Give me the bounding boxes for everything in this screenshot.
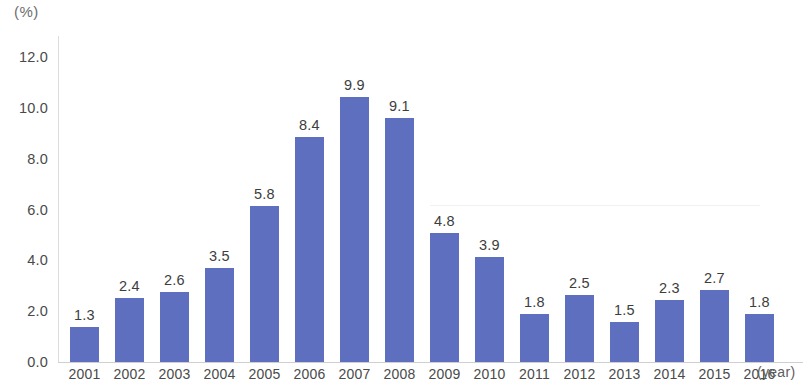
bar-slot: 2.5	[557, 36, 602, 362]
x-axis-tick-label: 2010	[467, 366, 512, 382]
y-axis-tick-label: 2.0	[0, 303, 48, 319]
bar[interactable]	[610, 322, 639, 362]
bar-slot: 5.8	[242, 36, 287, 362]
bar[interactable]	[565, 295, 594, 362]
bar-value-label: 9.1	[377, 98, 422, 114]
bar-value-label: 3.9	[467, 237, 512, 253]
bar[interactable]	[160, 292, 189, 362]
bar[interactable]	[745, 314, 774, 362]
bar-value-label: 1.5	[602, 302, 647, 318]
bar-value-label: 2.6	[152, 272, 197, 288]
bar-slot: 2.7	[692, 36, 737, 362]
bar-value-label: 2.3	[647, 280, 692, 296]
x-axis-tick-label: 2004	[197, 366, 242, 382]
y-axis-unit-label: (%)	[14, 3, 39, 20]
bar[interactable]	[115, 298, 144, 362]
y-axis-tick-label: 12.0	[0, 49, 48, 65]
bar-slot: 1.8	[737, 36, 782, 362]
bar-value-label: 2.7	[692, 270, 737, 286]
x-axis-tick-label: 2007	[332, 366, 377, 382]
bar-slot: 2.6	[152, 36, 197, 362]
bar-slot: 9.9	[332, 36, 377, 362]
bar[interactable]	[250, 206, 279, 362]
bar-value-label: 5.8	[242, 186, 287, 202]
x-axis-tick-label: 2013	[602, 366, 647, 382]
bar[interactable]	[475, 257, 504, 362]
bar-slot: 2.3	[647, 36, 692, 362]
x-axis-tick-label: 2001	[62, 366, 107, 382]
bar[interactable]	[295, 137, 324, 362]
x-axis-tick-label: 2008	[377, 366, 422, 382]
bar-chart: (%) 0.02.04.06.08.010.012.0 1.32.42.63.5…	[0, 0, 810, 390]
bar[interactable]	[205, 268, 234, 362]
bar[interactable]	[70, 327, 99, 362]
y-axis-tick-label: 4.0	[0, 252, 48, 268]
x-axis-line	[58, 362, 803, 363]
x-axis-tick-label: 2012	[557, 366, 602, 382]
bar-value-label: 1.8	[737, 294, 782, 310]
bar-value-label: 4.8	[422, 213, 467, 229]
x-axis-tick-label: 2003	[152, 366, 197, 382]
y-axis-tick-label: 8.0	[0, 151, 48, 167]
bar[interactable]	[385, 118, 414, 362]
bar-slot: 3.5	[197, 36, 242, 362]
x-axis-tick-label: 2014	[647, 366, 692, 382]
bar-value-label: 2.5	[557, 275, 602, 291]
bar-slot: 9.1	[377, 36, 422, 362]
bar-slot: 1.3	[62, 36, 107, 362]
plot-area: 1.32.42.63.55.88.49.99.14.83.91.82.51.52…	[58, 36, 803, 362]
bar-slot: 1.5	[602, 36, 647, 362]
bar-slot: 2.4	[107, 36, 152, 362]
x-axis-tick-label: 2006	[287, 366, 332, 382]
bar-value-label: 1.8	[512, 294, 557, 310]
bar-value-label: 1.3	[62, 307, 107, 323]
bar-value-label: 8.4	[287, 117, 332, 133]
x-axis-tick-label: 2011	[512, 366, 557, 382]
bar-slot: 3.9	[467, 36, 512, 362]
x-axis-tick-label: 2015	[692, 366, 737, 382]
bar-value-label: 2.4	[107, 278, 152, 294]
bar-value-label: 9.9	[332, 77, 377, 93]
bar[interactable]	[520, 314, 549, 362]
x-axis-tick-label: 2005	[242, 366, 287, 382]
y-axis-tick-label: 0.0	[0, 354, 48, 370]
x-axis-tick-label: 2009	[422, 366, 467, 382]
bar-slot: 4.8	[422, 36, 467, 362]
bar[interactable]	[700, 290, 729, 362]
bar-slot: 1.8	[512, 36, 557, 362]
x-axis-tick-label: 2002	[107, 366, 152, 382]
bar-value-label: 3.5	[197, 248, 242, 264]
bar[interactable]	[655, 300, 684, 362]
bar[interactable]	[340, 97, 369, 362]
bar[interactable]	[430, 233, 459, 362]
y-axis-tick-label: 10.0	[0, 100, 48, 116]
y-axis-tick-label: 6.0	[0, 202, 48, 218]
x-axis-unit-label: (year)	[757, 364, 795, 380]
bar-slot: 8.4	[287, 36, 332, 362]
